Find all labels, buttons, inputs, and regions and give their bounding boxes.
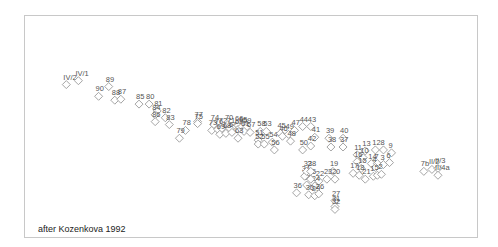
data-point: 86 — [151, 110, 160, 126]
data-point: II/4a — [434, 163, 450, 179]
point-label: 89 — [106, 75, 114, 84]
point-label: 79 — [176, 126, 184, 135]
point-label: 44 — [300, 115, 308, 124]
point-label: 2 — [378, 162, 382, 171]
point-label: 53 — [263, 119, 271, 128]
data-point: 57 — [246, 120, 255, 136]
point-label: 87 — [118, 87, 126, 96]
data-point: 21 — [361, 167, 370, 183]
point-label: 9 — [389, 141, 393, 150]
point-label: 8 — [380, 138, 384, 147]
point-label: 3 — [380, 153, 384, 162]
point-label: 37 — [340, 135, 348, 144]
data-point: 23 — [323, 167, 332, 183]
data-point: 85 — [135, 92, 144, 108]
diamond-marker — [331, 175, 339, 183]
diamond-marker — [234, 134, 242, 142]
point-label: 36 — [294, 181, 302, 190]
data-point: 56 — [270, 138, 279, 154]
point-label: 39 — [326, 126, 334, 135]
data-point: 63 — [234, 126, 243, 142]
point-label: 90 — [96, 84, 104, 93]
diamond-marker — [95, 92, 103, 100]
diamond-marker — [165, 121, 173, 129]
data-point: 48 — [287, 129, 296, 145]
scatter-plot: IV/2IV/189908887858081848682837879777574… — [0, 0, 498, 247]
diamond-marker — [151, 118, 159, 126]
point-label: 12 — [372, 138, 380, 147]
point-label: 23 — [324, 167, 332, 176]
point-label: 21 — [362, 167, 370, 176]
point-label: 32 — [332, 197, 340, 206]
point-label: 43 — [308, 115, 316, 124]
point-label: 86 — [152, 110, 160, 119]
data-point: 7b — [420, 159, 429, 175]
point-label: 75 — [195, 112, 203, 121]
diamond-marker — [293, 189, 301, 197]
point-label: 42 — [308, 134, 316, 143]
point-label: IV/1 — [75, 69, 88, 78]
diamond-marker — [339, 143, 347, 151]
diamond-marker — [420, 167, 428, 175]
diamond-marker — [434, 171, 442, 179]
data-point: 83 — [165, 113, 174, 129]
point-label: 20 — [332, 167, 340, 176]
data-point: 26 — [315, 182, 324, 198]
data-point: 37 — [339, 135, 348, 151]
data-point: 79 — [175, 126, 184, 142]
data-point: 44 — [299, 115, 308, 131]
point-label: 40 — [340, 126, 348, 135]
point-label: 41 — [312, 125, 320, 134]
data-point: 38 — [327, 135, 336, 151]
data-point: 32 — [331, 197, 340, 213]
source-annotation: after Kozenkova 1992 — [38, 224, 126, 234]
diamond-marker — [299, 146, 307, 154]
diamond-marker — [135, 100, 143, 108]
diamond-marker — [175, 134, 183, 142]
diamond-marker — [62, 81, 70, 89]
data-point: IV/1 — [74, 69, 88, 85]
data-point: 55 — [260, 132, 269, 148]
diamond-marker — [270, 146, 278, 154]
data-point: 36 — [293, 181, 302, 197]
point-label: 6 — [387, 151, 391, 160]
point-label: 83 — [166, 113, 174, 122]
data-point: 87 — [117, 87, 126, 103]
data-point: 75 — [194, 112, 203, 128]
point-label: II/4a — [435, 163, 450, 172]
data-point: 90 — [95, 84, 104, 100]
point-label: 26 — [316, 182, 324, 191]
point-label: 50 — [300, 138, 308, 147]
point-label: 56 — [271, 138, 279, 147]
data-point: 20 — [331, 167, 340, 183]
data-point: 50 — [299, 138, 308, 154]
diamond-marker — [287, 137, 295, 145]
point-label: 38 — [328, 135, 336, 144]
diamond-marker — [327, 143, 335, 151]
data-point: 42 — [307, 134, 316, 150]
point-label: 48 — [288, 129, 296, 138]
point-label: 85 — [136, 92, 144, 101]
point-label: 28 — [308, 159, 316, 168]
point-label: 63 — [235, 126, 243, 135]
